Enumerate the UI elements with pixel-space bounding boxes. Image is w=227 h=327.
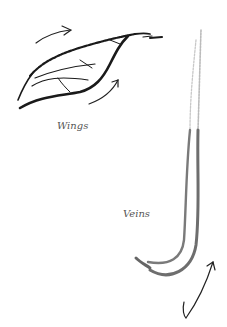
veins-label: Veins <box>123 208 150 219</box>
curved-arrow-icon <box>89 80 118 104</box>
leaf-sketch-icon <box>18 33 162 108</box>
vein-strokes-icon <box>136 30 201 275</box>
sketch-illustration <box>0 0 227 327</box>
wings-label: Wings <box>57 120 88 131</box>
hook-arrow-icon <box>183 262 215 318</box>
curved-arrow-icon <box>36 26 71 43</box>
illustration-canvas: Wings Veins <box>0 0 227 327</box>
